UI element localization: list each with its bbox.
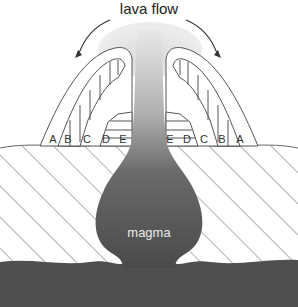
magma-label: magma [0, 225, 298, 240]
layer-label-right-d: D [183, 133, 191, 145]
layer-label-left-a: A [49, 133, 56, 145]
layer-label-left-e: E [119, 133, 126, 145]
layer-label-right-e: E [166, 133, 173, 145]
layer-label-left-c: C [83, 133, 91, 145]
left-cone [40, 47, 132, 146]
volcano-diagram: lava flow A B C D E E D C B A magma [0, 0, 298, 307]
layer-label-right-b: B [218, 133, 225, 145]
layer-label-right-c: C [200, 133, 208, 145]
layer-label-left-d: D [102, 133, 110, 145]
volcano-cross-section [0, 0, 298, 307]
diagram-title: lava flow [0, 0, 298, 17]
right-cone [166, 47, 258, 146]
layer-label-right-a: A [236, 133, 243, 145]
layer-label-left-b: B [64, 133, 71, 145]
